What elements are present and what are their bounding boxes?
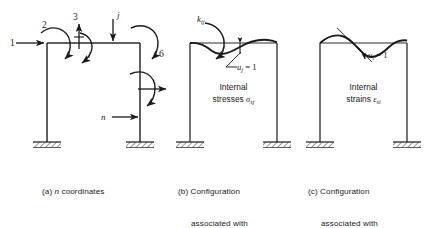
support-fixed-left-a — [33, 142, 61, 148]
internal-strains-line2: strains εsi — [346, 94, 381, 105]
coordinate-1-label: 1 — [10, 38, 15, 48]
stiffness-kij-label: kij — [197, 14, 205, 25]
panel-a-frame — [33, 43, 154, 148]
coordinate-3-label: 3 — [73, 12, 78, 22]
support-fixed-left-c — [306, 142, 334, 148]
support-fixed-right-c — [393, 142, 421, 148]
coordinate-2-label: 2 — [42, 20, 47, 30]
deflected-shape-b — [190, 40, 277, 54]
caption-panel-a: (a) n coordinates — [42, 166, 104, 219]
caption-a-italic-n: n — [55, 187, 60, 196]
caption-b-line2: associated with — [178, 219, 268, 228]
caption-panel-b: (b) Configuration associated with column… — [178, 166, 268, 228]
caption-panel-c: (c) Configuration associated with column… — [308, 166, 398, 228]
internal-stresses-line2: stresses σsj — [213, 94, 255, 105]
support-fixed-left-b — [176, 142, 204, 148]
internal-strains-line1: Internal — [350, 82, 378, 92]
structural-frame-figure: 1 2 3 i j 6 — [0, 0, 436, 228]
support-fixed-right-b — [263, 142, 291, 148]
coordinate-j-label: j — [116, 10, 120, 20]
unit-displacement-label-c: ui = 1 — [368, 50, 387, 61]
coordinate-3-arrow — [74, 24, 84, 49]
coordinate-6-label: 6 — [159, 49, 164, 59]
coordinate-n-label: n — [101, 112, 106, 122]
support-fixed-right-a — [126, 142, 154, 148]
unit-displacement-label-b: uj = 1 — [237, 62, 256, 73]
rotation-tangent-c — [337, 28, 372, 62]
caption-c-line2: associated with — [308, 219, 398, 228]
internal-stresses-line1: Internal — [220, 82, 248, 92]
